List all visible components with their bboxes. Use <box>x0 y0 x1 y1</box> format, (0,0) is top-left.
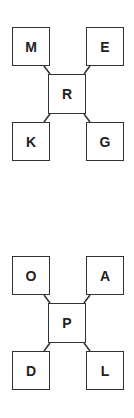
node-bottom-left: D <box>12 351 50 390</box>
node-top-right: E <box>86 27 124 66</box>
diagram-1: M E R K G <box>0 27 134 167</box>
node-center: P <box>48 303 86 343</box>
diagram-2: O A P D L <box>0 256 134 396</box>
node-top-left: M <box>12 27 50 66</box>
node-bottom-right: G <box>86 122 124 161</box>
node-top-left: O <box>12 256 50 295</box>
node-bottom-right: L <box>86 351 124 390</box>
node-top-right: A <box>86 256 124 295</box>
node-center: R <box>48 74 86 114</box>
node-bottom-left: K <box>12 122 50 161</box>
